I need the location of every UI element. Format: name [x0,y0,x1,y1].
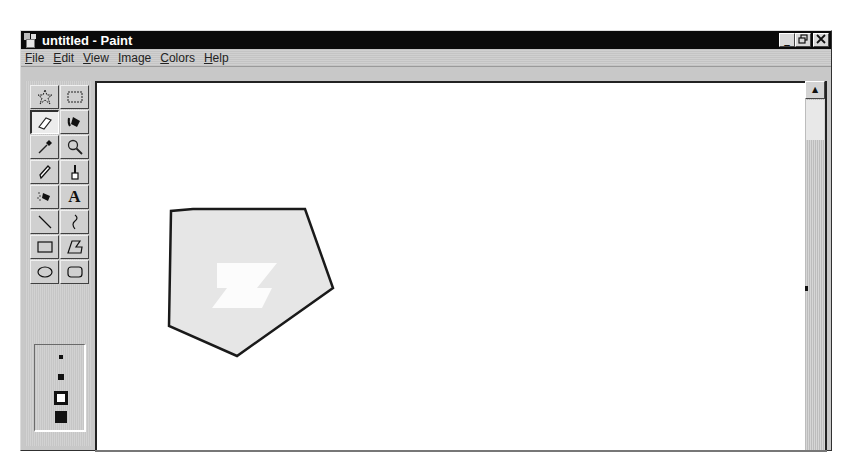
menu-colors[interactable]: Colors [160,51,195,65]
window-title: untitled - Paint [42,33,132,48]
eraser-size-8-selected[interactable] [54,391,68,405]
canvas-bottom-border [95,450,827,452]
rounded-rectangle-icon [66,263,84,281]
menu-separator [21,66,831,67]
tool-polygon[interactable] [60,235,89,259]
scroll-thumb[interactable] [806,100,824,140]
window-controls: _ [779,33,829,47]
menu-view[interactable]: View [83,51,109,65]
magnifier-icon [66,138,84,156]
eraser-size-6[interactable] [58,374,64,380]
tools-grid: A [30,85,90,284]
tool-text[interactable]: A [60,185,89,209]
title-bar[interactable]: untitled - Paint _ [21,31,831,49]
menu-help[interactable]: Help [204,51,229,65]
eraser-size-4[interactable] [59,355,63,359]
scroll-up-button[interactable]: ▲ [805,81,825,99]
menu-image[interactable]: Image [118,51,151,65]
restore-icon [797,34,809,44]
airbrush-icon [36,188,54,206]
tool-curve[interactable] [60,210,89,234]
line-icon [36,213,54,231]
menu-file[interactable]: File [25,51,44,65]
close-icon [816,34,826,44]
pencil-icon [36,163,54,181]
tool-free-form-select[interactable] [30,85,59,109]
restore-button[interactable] [795,33,811,47]
star-select-icon [36,88,54,106]
ellipse-icon [36,263,54,281]
menu-bar: File Edit View Image Colors Help [21,49,831,66]
eraser-size-options [34,344,86,432]
polygon-icon [66,238,84,256]
tool-airbrush[interactable] [30,185,59,209]
menu-edit[interactable]: Edit [53,51,74,65]
tool-pencil[interactable] [30,160,59,184]
tool-magnifier[interactable] [60,135,89,159]
tool-rectangle[interactable] [30,235,59,259]
rect-select-icon [66,88,84,106]
paint-bucket-icon [66,113,84,131]
drawing-canvas[interactable] [95,81,805,451]
tool-brush[interactable] [60,160,89,184]
toolbox: A [25,81,91,446]
tool-rounded-rectangle[interactable] [60,260,89,284]
eraser-icon [36,114,54,132]
text-icon: A [68,187,80,207]
brush-icon [66,163,84,181]
rectangle-icon [36,238,54,256]
canvas-resize-handle[interactable] [805,286,808,291]
tool-line[interactable] [30,210,59,234]
minimize-button[interactable]: _ [779,33,795,47]
vertical-scrollbar[interactable]: ▲ [805,81,827,451]
up-arrow-icon: ▲ [812,85,818,94]
canvas-drawing [97,83,805,451]
eraser-size-10[interactable] [55,411,67,423]
tool-eraser[interactable] [30,110,59,134]
tool-ellipse[interactable] [30,260,59,284]
close-button[interactable] [813,33,829,47]
paint-window: untitled - Paint _ File Edit View Image … [20,30,832,451]
paint-app-icon[interactable] [23,33,39,48]
eyedropper-icon [36,138,54,156]
tool-pick-color[interactable] [30,135,59,159]
tool-select[interactable] [60,85,89,109]
tool-fill-with-color[interactable] [60,110,89,134]
curve-icon [66,213,84,231]
